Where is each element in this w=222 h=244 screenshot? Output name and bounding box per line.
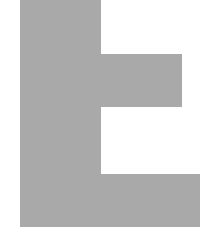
vertical-bar (20, 0, 101, 227)
middle-arm (101, 54, 182, 107)
bottom-arm (101, 174, 200, 227)
